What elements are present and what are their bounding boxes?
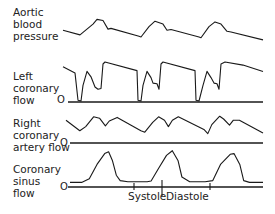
trace-coronary-sinus bbox=[70, 151, 263, 183]
waveform-diagram bbox=[0, 0, 275, 214]
trace-aortic bbox=[63, 19, 263, 40]
trace-right-coronary bbox=[66, 116, 263, 133]
trace-left-coronary bbox=[63, 62, 263, 101]
